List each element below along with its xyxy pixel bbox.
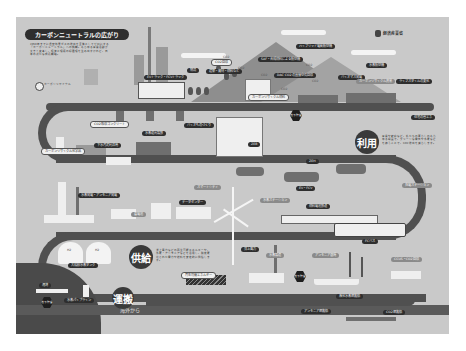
label-cr-agriculture: カーボンリサイクル農業 (356, 79, 395, 84)
meti-logo-text: 経済産業省 (383, 30, 403, 36)
section-transport-circle: 運搬 (112, 287, 134, 309)
label-offshore-wind: 洋上風力 (241, 247, 259, 252)
section-use-circle: 利用 (355, 130, 379, 154)
label-building-materials: 建築・資材・燃料など (206, 69, 242, 74)
label-ammonia-ship: アンモニア運搬船 (301, 309, 331, 314)
storage (44, 215, 94, 223)
building (151, 203, 171, 219)
label-data-center: データセンター (179, 200, 206, 205)
road-bottom (146, 298, 416, 306)
port-building (83, 285, 89, 297)
car-icon (236, 167, 264, 176)
airplane-icon (181, 53, 226, 58)
building (84, 69, 98, 85)
office-building (216, 117, 263, 157)
label-fc-bus: FCバス (362, 239, 378, 244)
building (134, 55, 144, 85)
label-zeb: ZEB (248, 142, 260, 147)
label-charging-station: 充電ステーション (402, 183, 432, 188)
label-pipeline: 水素パイプライン (64, 298, 94, 303)
pylon-icon (361, 257, 363, 277)
label-co2-ship: CO2運搬船 (383, 310, 405, 315)
road-top (46, 103, 434, 111)
label-hydrogen-steel: 水素還元製鉄 (142, 131, 166, 136)
title-banner: カーボンニュートラルの広がり (25, 29, 129, 40)
co2-mark: CO2 (261, 73, 267, 77)
label-zeh: ZEH (306, 159, 319, 164)
tree-icon (188, 87, 193, 95)
co2-mark: CO2 (312, 79, 318, 83)
label-lh2-ship: 液化水素運搬船 (336, 294, 363, 299)
label-hydrogen-tank: 大規模水素タンク (68, 263, 98, 268)
car-icon (284, 172, 319, 182)
tree-icon (204, 87, 209, 95)
label-cr-chemicals: カーボンリサイクル化学品 (41, 148, 85, 155)
bus-icon (334, 223, 406, 237)
label-house-energy: 住宅の省エネ (411, 115, 435, 120)
lng-ship (314, 279, 359, 285)
label-hydrogen-station: 水素ステーション (260, 198, 290, 203)
label-hydrogen-production: 水素製造 (266, 253, 284, 258)
label-sewage: 下水汚泥利活用 (94, 143, 121, 148)
label-saf: SAF・合成燃料による航空機 (258, 57, 303, 62)
section-supply-description: 洋上風力などの再生可能エネルギーや、水素・アンモニアなどを活用し、脱炭素化された… (156, 249, 211, 263)
label-ccus: CCUS・CO2回収 (391, 257, 422, 262)
power-plant (249, 273, 284, 283)
wind-turbine-blade (223, 209, 248, 227)
co2-mark: CO2 (223, 55, 229, 59)
hydrogen-tank (86, 242, 111, 264)
meti-logo-icon (375, 30, 381, 37)
pylon-icon (349, 252, 351, 277)
label-smart-city: スマートシティ (194, 185, 221, 190)
bridge-pillar (146, 111, 154, 121)
hydrogen-tank (58, 242, 83, 264)
factory (106, 157, 131, 165)
wind-turbine-icon (232, 187, 234, 265)
label-fc-train: 燃料電池鉄道 (306, 204, 330, 209)
label-port: 港湾 (39, 283, 51, 288)
infographic-poster: カーボンニュートラルの広がり 2050年までに温室効果ガスの排出を全体としてゼロ… (16, 17, 449, 334)
label-cr-fuel: カーボンリサイクル燃料 (248, 94, 289, 101)
airplane-icon (351, 50, 396, 55)
bridge-pillar (116, 111, 124, 121)
label-bio-manufacturing: バイオものづくり (184, 123, 214, 128)
label-underground-storage: 地下貯留 (290, 110, 302, 121)
label-ammonia-cofiring: アンモニア混焼 (312, 253, 339, 258)
label-ev-fcv: EV・FCV (296, 186, 315, 191)
label-ev-truck: EVトラック・FCVトラック (144, 75, 187, 80)
co2-mark: CO2 (238, 66, 244, 70)
h2-mark: H2 (67, 248, 71, 252)
label-lifestyle: ライフスタイルの変化 (396, 79, 432, 84)
label-logistics: 物流 (187, 68, 199, 73)
label-supply-underground: 地下貯留 (294, 271, 306, 282)
label-co2-concrete: CO2吸収コンクリート (90, 121, 129, 128)
h2-mark: H2 (95, 248, 99, 252)
car-icon (336, 164, 366, 174)
label-hybrid-aircraft: ハイブリッド電動航空機 (296, 44, 335, 49)
bridge-pillar (176, 111, 184, 121)
label-co2-capture: CO2回収 (211, 59, 232, 66)
ship-icon (36, 289, 68, 293)
truck (138, 82, 185, 99)
label-dac: DAC CO2の直接空気回収 (274, 73, 316, 78)
smokestack (274, 245, 277, 273)
tree-icon (196, 87, 201, 95)
label-hydrogen-aircraft: 水素航空機 (366, 63, 387, 68)
tanker-ship (346, 317, 396, 321)
label-renewable-energy: 再生可能エネルギー (181, 272, 216, 279)
steel-plant (136, 142, 171, 155)
tower (148, 27, 151, 82)
intro-text: 2050年までに温室効果ガスの排出を全体としてゼロにする「カーボンニュートラル」… (30, 43, 110, 57)
section-use-description: 産業や家庭など、私たちの暮らしのあらゆる場面で、グリーンな電気や水素などを使うこ… (382, 135, 437, 145)
co2-mark: CO2 (281, 87, 287, 91)
airplane-icon (281, 30, 326, 35)
label-hydrogen-power: 水素発電・アンモニア発電 (78, 193, 120, 198)
co2-mark: CO2 (306, 63, 312, 67)
data-center (176, 207, 211, 219)
chimney (58, 182, 66, 217)
section-supply-circle: 供給 (129, 245, 153, 269)
label-battery: 蓄電池 (131, 212, 146, 217)
storage-tank (391, 271, 421, 279)
recycle-icon (35, 82, 44, 91)
